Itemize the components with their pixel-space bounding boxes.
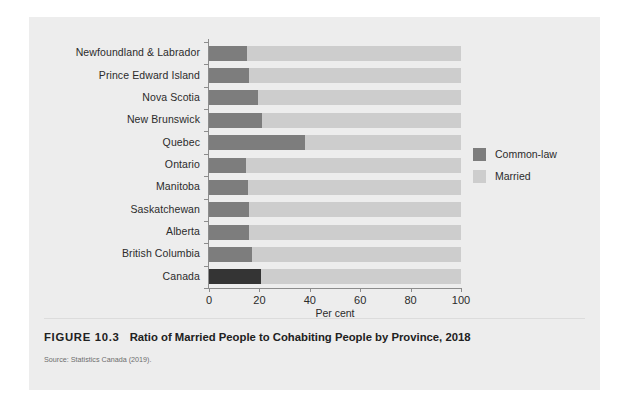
y-axis-tick — [204, 42, 208, 43]
bar-row — [209, 202, 461, 217]
figure-title: Ratio of Married People to Cohabiting Pe… — [130, 331, 471, 343]
bar-segment-married — [249, 202, 461, 217]
y-axis-label: Saskatchewan — [40, 203, 200, 215]
x-axis-tick — [461, 288, 462, 292]
bar-segment-common-law — [209, 269, 261, 284]
x-axis-tick-label: 60 — [354, 294, 366, 306]
bar-row — [209, 247, 461, 262]
y-axis-label: Quebec — [40, 136, 200, 148]
y-axis-tick — [204, 199, 208, 200]
x-axis-tick-label: 100 — [452, 294, 470, 306]
y-axis-label: Manitoba — [40, 180, 200, 192]
figure-number: FIGURE 10.3 — [44, 331, 120, 343]
y-axis-label: Newfoundland & Labrador — [40, 46, 200, 58]
bar-segment-married — [248, 180, 461, 195]
y-axis-tick — [204, 266, 208, 267]
bar-row — [209, 180, 461, 195]
bar-segment-common-law — [209, 158, 246, 173]
x-axis-tick-label: 0 — [206, 294, 212, 306]
y-axis-tick — [204, 243, 208, 244]
y-axis-label: Prince Edward Island — [40, 69, 200, 81]
bar-segment-common-law — [209, 90, 258, 105]
bar-segment-common-law — [209, 46, 247, 61]
y-axis — [208, 39, 209, 288]
y-axis-label: Canada — [40, 270, 200, 282]
bar-segment-married — [305, 135, 461, 150]
caption-divider — [44, 318, 585, 319]
bar-segment-married — [249, 68, 461, 83]
x-axis-tick — [259, 288, 260, 292]
bar-segment-common-law — [209, 135, 305, 150]
x-axis-tick — [209, 288, 210, 292]
x-axis-tick — [411, 288, 412, 292]
bar-segment-married — [252, 247, 461, 262]
x-axis-tick — [360, 288, 361, 292]
legend-label: Common-law — [495, 148, 557, 160]
y-axis-label: Alberta — [40, 225, 200, 237]
y-axis-label: Nova Scotia — [40, 91, 200, 103]
bar-row — [209, 225, 461, 240]
legend-item: Common-law — [473, 143, 557, 165]
chart-plot-area: Newfoundland & LabradorPrince Edward Isl… — [209, 42, 461, 288]
y-axis-tick — [204, 221, 208, 222]
bar-segment-common-law — [209, 68, 249, 83]
bar-row — [209, 158, 461, 173]
legend-swatch-icon — [473, 170, 486, 183]
x-axis-tick — [310, 288, 311, 292]
bar-segment-common-law — [209, 225, 249, 240]
bar-row — [209, 90, 461, 105]
y-axis-tick — [204, 87, 208, 88]
x-axis-tick-label: 40 — [304, 294, 316, 306]
bar-row — [209, 269, 461, 284]
figure-caption: FIGURE 10.3 Ratio of Married People to C… — [44, 331, 589, 343]
y-axis-tick — [204, 131, 208, 132]
x-axis-tick-label: 80 — [404, 294, 416, 306]
bar-segment-married — [262, 113, 461, 128]
bar-segment-common-law — [209, 180, 248, 195]
y-axis-label: British Columbia — [40, 247, 200, 259]
y-axis-tick — [204, 64, 208, 65]
bar-segment-married — [261, 269, 461, 284]
bar-segment-married — [249, 225, 461, 240]
y-axis-label: New Brunswick — [40, 113, 200, 125]
legend-item: Married — [473, 165, 557, 187]
bar-segment-married — [258, 90, 461, 105]
y-axis-tick — [204, 109, 208, 110]
y-axis-tick — [204, 154, 208, 155]
bar-segment-common-law — [209, 247, 252, 262]
x-axis: 020406080100 — [208, 288, 462, 289]
bar-segment-common-law — [209, 113, 262, 128]
bar-row — [209, 113, 461, 128]
legend-swatch-icon — [473, 148, 486, 161]
bar-row — [209, 46, 461, 61]
y-axis-label: Ontario — [40, 158, 200, 170]
bar-segment-married — [246, 158, 461, 173]
y-axis-tick — [204, 176, 208, 177]
figure-panel: Newfoundland & LabradorPrince Edward Isl… — [29, 17, 600, 390]
x-axis-tick-label: 20 — [253, 294, 265, 306]
bar-segment-married — [247, 46, 461, 61]
bar-row — [209, 135, 461, 150]
bar-row — [209, 68, 461, 83]
chart-legend: Common-lawMarried — [473, 143, 557, 187]
legend-label: Married — [495, 170, 531, 182]
bar-segment-common-law — [209, 202, 249, 217]
figure-source: Source: Statistics Canada (2019). — [44, 355, 151, 364]
